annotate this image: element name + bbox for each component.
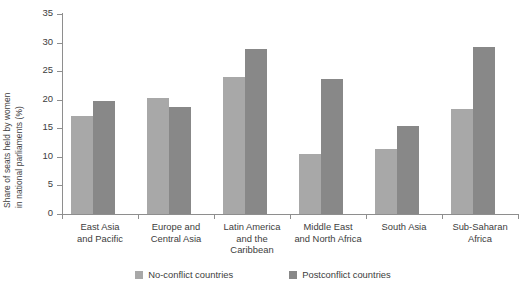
bar [93, 101, 115, 214]
bar-group [62, 14, 138, 214]
chart-legend: No-conflict countriesPostconflict countr… [0, 269, 526, 280]
y-axis-tick: 30 [0, 43, 62, 44]
x-axis-separator [442, 214, 443, 219]
bar [147, 98, 169, 214]
bar [321, 79, 343, 214]
y-axis-tick-label: 10 [42, 150, 53, 161]
y-axis-tick: 15 [0, 128, 62, 129]
legend-swatch-icon [289, 271, 297, 279]
bar [375, 149, 397, 214]
y-axis-tick-label: 15 [42, 121, 53, 132]
x-axis-separator [214, 214, 215, 219]
bar-group [290, 14, 366, 214]
bar [223, 77, 245, 214]
bar-group [442, 14, 518, 214]
bar [245, 49, 267, 214]
y-axis-tick: 20 [0, 100, 62, 101]
legend-item[interactable]: Postconflict countries [289, 269, 391, 280]
bar [299, 154, 321, 214]
x-axis-separator [290, 214, 291, 219]
bar [451, 109, 473, 214]
legend-item[interactable]: No-conflict countries [135, 269, 233, 280]
y-axis-tick: 35 [0, 14, 62, 15]
y-axis-tick: 10 [0, 157, 62, 158]
legend-label: Postconflict countries [302, 269, 391, 280]
bar-group [214, 14, 290, 214]
bar-group [138, 14, 214, 214]
x-axis-separator [518, 214, 519, 219]
y-axis-tick-label: 30 [42, 36, 53, 47]
x-axis-category-label: Sub-Saharan Africa [434, 221, 526, 244]
bar-chart-figure: Share of seats held by women in national… [0, 0, 526, 292]
y-axis-title: Share of seats held by women in national… [0, 0, 30, 216]
legend-label: No-conflict countries [148, 269, 233, 280]
plot-area [62, 14, 518, 214]
legend-swatch-icon [135, 271, 143, 279]
y-axis-tick-label: 5 [48, 178, 53, 189]
bar [71, 116, 93, 214]
bar [473, 47, 495, 214]
y-axis-tick-label: 35 [42, 7, 53, 18]
bar [397, 126, 419, 214]
x-axis-separator [138, 214, 139, 219]
y-axis-tick-label: 0 [48, 207, 53, 218]
y-axis-tick-label: 20 [42, 93, 53, 104]
y-axis-title-line-1: Share of seats held by women [2, 93, 14, 208]
y-axis-tick: 25 [0, 71, 62, 72]
y-axis-tick-label: 25 [42, 64, 53, 75]
bar-group [366, 14, 442, 214]
bar [169, 107, 191, 214]
x-axis-separator [62, 214, 63, 219]
y-axis-tick: 5 [0, 185, 62, 186]
x-axis-separator [366, 214, 367, 219]
y-axis-tick: 0 [0, 214, 62, 215]
